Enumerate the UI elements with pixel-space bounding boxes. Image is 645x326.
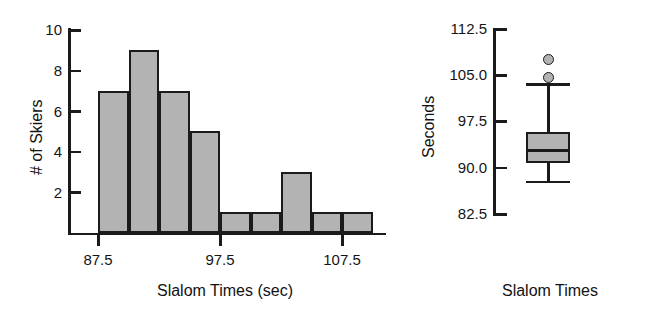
- boxplot-box: [526, 132, 570, 163]
- histogram-y-axis-line: [68, 28, 71, 235]
- histogram-x-axis-line: [68, 233, 386, 236]
- boxplot-y-tick-112-5: [495, 28, 507, 31]
- boxplot-outlier-2: [543, 72, 554, 83]
- histogram-y-tick-6: [70, 110, 81, 113]
- boxplot-x-axis-title: Slalom Times: [475, 282, 625, 299]
- histogram-bar-7: [281, 172, 312, 233]
- boxplot-y-tick-97-5: [495, 120, 507, 123]
- boxplot-y-tick-82-5: [495, 213, 507, 216]
- histogram-y-tick-8: [70, 70, 81, 73]
- histogram-bar-2: [129, 50, 160, 233]
- histogram-y-axis-title: # of Skiers: [28, 99, 45, 175]
- histogram-bar-1: [98, 91, 129, 233]
- histogram-x-tick-107-5: [341, 235, 344, 246]
- boxplot-outlier-1: [543, 54, 554, 65]
- boxplot-lower-whisker-stem: [547, 163, 550, 182]
- boxplot-y-tick-label-90-0: 90.0: [427, 160, 487, 175]
- histogram-y-tick-4: [70, 151, 81, 154]
- histogram-y-tick-label-10: 10: [40, 22, 62, 37]
- histogram-x-axis-title: Slalom Times (sec): [80, 282, 370, 299]
- histogram-x-tick-97-5: [219, 235, 222, 246]
- histogram-y-tick-2: [70, 191, 81, 194]
- histogram-x-tick-label-87-5: 87.5: [73, 252, 123, 267]
- figure-two-panel-slalom: 10 8 6 4 2 # of Skiers 87.5 97.5 107.5 S…: [0, 0, 645, 326]
- boxplot-y-tick-90-0: [495, 167, 507, 170]
- boxplot-upper-whisker-stem: [547, 83, 550, 132]
- histogram-x-tick-87-5: [97, 235, 100, 246]
- boxplot-median-line: [526, 149, 570, 152]
- histogram-bar-3: [159, 91, 190, 233]
- histogram-y-tick-label-8: 8: [40, 63, 62, 78]
- histogram-bar-6: [251, 212, 282, 233]
- histogram-bar-4: [190, 131, 221, 233]
- histogram-bar-8: [312, 212, 343, 233]
- histogram-y-tick-label-2: 2: [40, 185, 62, 200]
- boxplot-y-tick-105-0: [495, 74, 507, 77]
- histogram-y-tick-10: [70, 29, 81, 32]
- boxplot-y-tick-label-112-5: 112.5: [427, 21, 487, 36]
- histogram-x-tick-label-97-5: 97.5: [195, 252, 245, 267]
- boxplot-y-tick-label-82-5: 82.5: [427, 206, 487, 221]
- boxplot-y-tick-label-105-0: 105.0: [427, 67, 487, 82]
- histogram-x-tick-label-107-5: 107.5: [313, 252, 371, 267]
- boxplot-y-axis-title: Seconds: [420, 96, 437, 158]
- histogram-bar-5: [220, 212, 251, 233]
- boxplot-panel: 112.5 105.0 97.5 90.0 82.5 Seconds Slalo…: [400, 0, 645, 326]
- histogram-bar-9: [342, 212, 373, 233]
- boxplot-lower-whisker-cap: [526, 181, 570, 184]
- histogram-panel: 10 8 6 4 2 # of Skiers 87.5 97.5 107.5 S…: [0, 0, 400, 326]
